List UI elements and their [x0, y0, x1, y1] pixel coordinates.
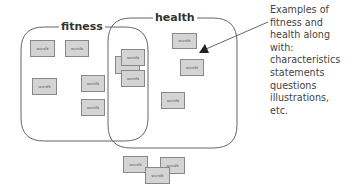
outside-card[interactable]: words: [145, 167, 170, 184]
overlap-card[interactable]: words: [121, 70, 145, 87]
card-text: words: [87, 82, 99, 86]
annotation-line: fitness and: [270, 17, 354, 30]
fitness-card[interactable]: words: [30, 40, 55, 57]
annotation-line: illustrations,: [270, 92, 354, 105]
card-text: words: [127, 77, 139, 81]
fitness-card[interactable]: words: [81, 99, 105, 116]
health-card[interactable]: words: [161, 92, 185, 109]
card-text: words: [151, 174, 163, 178]
annotation-line: etc.: [270, 105, 354, 118]
card-text: words: [178, 39, 190, 43]
annotation-text: Examples of fitness and health along wit…: [270, 4, 354, 117]
health-card[interactable]: words: [172, 33, 197, 49]
card-text: words: [167, 99, 179, 103]
card-text: words: [87, 106, 99, 110]
fitness-card[interactable]: words: [65, 40, 89, 57]
card-text: words: [36, 47, 48, 51]
annotation-line: statements: [270, 67, 354, 80]
card-text: words: [127, 56, 139, 60]
health-label: health: [153, 12, 197, 24]
fitness-label: fitness: [59, 21, 105, 33]
annotation-line: Examples of: [270, 4, 354, 17]
fitness-card[interactable]: words: [81, 75, 105, 92]
overlap-card[interactable]: words: [121, 49, 145, 66]
annotation-line: with:: [270, 42, 354, 55]
fitness-card[interactable]: words: [32, 78, 57, 95]
annotation-line: health along: [270, 29, 354, 42]
card-text: words: [129, 163, 141, 167]
annotation-line: questions: [270, 80, 354, 93]
card-text: words: [38, 85, 50, 89]
card-text: words: [186, 66, 198, 70]
health-card[interactable]: words: [180, 59, 204, 76]
card-text: words: [71, 47, 83, 51]
annotation-line: characteristics: [270, 54, 354, 67]
